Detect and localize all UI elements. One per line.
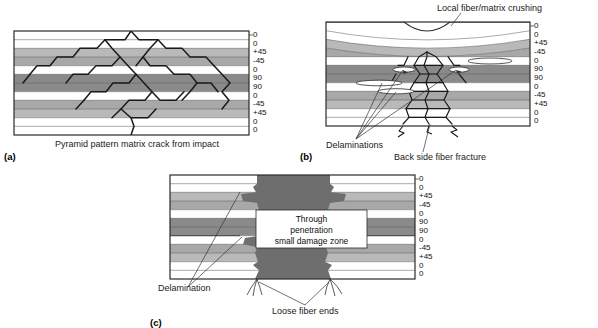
panel-a-id: (a) [4, 151, 16, 162]
ply-label: 0 [253, 31, 257, 39]
ply-label: 0 [253, 126, 257, 134]
delaminations-label: Delaminations [326, 140, 383, 150]
ply-label: +45 [534, 100, 548, 108]
ply-label: +45 [419, 253, 433, 261]
panel-b-id: (b) [300, 151, 312, 162]
through-penetration-textbox: Through penetration small damage zone [256, 210, 367, 248]
ply-label: 0 [419, 175, 423, 183]
panel-a: 0 0 +45 -45 0 90 90 0 -45 +45 0 0 Pyrami… [0, 0, 292, 165]
ply-label: 90 [534, 74, 543, 82]
ply-label: 0 [534, 117, 538, 125]
zone-text-line1: Through [296, 214, 328, 224]
panel-a-caption: Pyramid pattern matrix crack from impact [55, 139, 219, 149]
panel-c-drawing: Through penetration small damage zone [120, 165, 460, 326]
zone-text-line3: small damage zone [275, 236, 349, 246]
loose-fiber-ends-c [247, 279, 342, 296]
loose-fiber-ends-label: Loose fiber ends [272, 306, 339, 316]
ply-label: 90 [253, 83, 262, 91]
ply-label: -45 [534, 48, 546, 56]
panel-b: 0 0 +45 -45 0 90 90 0 -45 +45 0 0 Local … [296, 0, 598, 165]
panel-c-id: (c) [150, 317, 162, 328]
back-side-fracture-label: Back side fiber fracture [394, 152, 486, 162]
ply-label: -45 [253, 57, 265, 65]
local-crushing-label: Local fiber/matrix crushing [437, 3, 542, 13]
ply-label: 90 [419, 227, 428, 235]
ply-label: -45 [419, 201, 431, 209]
panel-c: Through penetration small damage zone 0 … [120, 165, 460, 326]
ply-label: 0 [534, 22, 538, 30]
ply-label: 0 [419, 270, 423, 278]
delamination-label: Delamination [158, 283, 211, 293]
ply-label: +45 [253, 109, 267, 117]
zone-text-line2: penetration [290, 225, 333, 235]
